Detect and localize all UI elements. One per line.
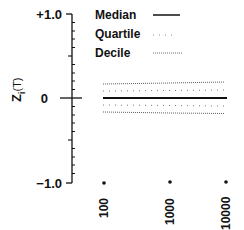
svg-text:Zi(T): Zi(T): [9, 77, 27, 102]
xtick-label-100: 100: [97, 198, 111, 218]
x-marker-1000: [168, 180, 172, 184]
legend-label-quartile: Quartile: [95, 27, 141, 41]
lower-decile-line: [103, 112, 225, 114]
legend: Median Quartile Decile: [95, 8, 183, 60]
ytick-label-zero: 0: [41, 91, 48, 106]
lower-quartile-line: [103, 105, 225, 106]
ytick-label-bottom: −1.0: [36, 176, 62, 191]
ytick-label-top: +1.0: [36, 7, 62, 22]
x-marker-10000: [224, 180, 228, 184]
legend-label-median: Median: [95, 8, 136, 22]
ylabel-main: Z: [9, 94, 24, 102]
x-marker-100: [102, 181, 106, 185]
x-axis: 100 1000 10000: [97, 180, 233, 230]
ylabel-paren: (T): [11, 77, 23, 91]
y-axis-label: Zi(T): [9, 77, 27, 102]
xtick-label-1000: 1000: [163, 198, 177, 225]
plot-area: [103, 82, 227, 114]
legend-label-decile: Decile: [95, 46, 131, 60]
upper-decile-line: [103, 82, 225, 84]
upper-quartile-line: [103, 90, 225, 91]
chart: +1.0 0 −1.0 Zi(T) Median Quartile Decile: [0, 0, 244, 230]
y-axis: +1.0 0 −1.0: [36, 7, 82, 191]
xtick-label-10000: 10000: [219, 196, 233, 230]
